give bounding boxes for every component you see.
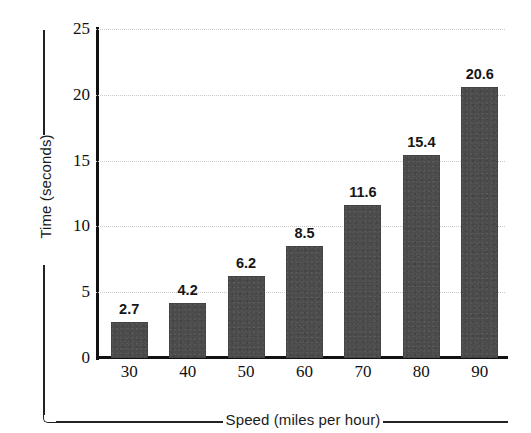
y-tick-label-5: 5 xyxy=(62,282,90,302)
y-tick-label-25: 25 xyxy=(62,19,90,39)
bar-value-label: 6.2 xyxy=(214,255,279,271)
bar-group: 2.7 xyxy=(111,29,148,358)
bars-layer: 2.74.26.28.511.615.420.6 xyxy=(96,29,505,358)
bar-value-label: 11.6 xyxy=(330,184,395,200)
y-tick-label-15: 15 xyxy=(62,151,90,171)
x-axis-title: Speed (miles per hour) xyxy=(223,411,383,428)
y-axis-tick-labels: 0510152025 xyxy=(60,29,90,358)
y-tick-label-0: 0 xyxy=(62,348,90,368)
x-tick-label-60: 60 xyxy=(275,362,334,382)
bar xyxy=(169,303,206,358)
bar-value-label: 15.4 xyxy=(389,134,454,150)
x-axis-tick-labels: 30405060708090 xyxy=(96,362,505,388)
bar xyxy=(111,322,148,358)
x-axis-title-rule-left xyxy=(56,421,223,423)
x-axis-title-rule-right xyxy=(383,421,508,423)
bar-group: 20.6 xyxy=(461,29,498,358)
bar-value-label: 2.7 xyxy=(97,301,162,317)
x-tick-label-40: 40 xyxy=(158,362,217,382)
bar-value-label: 20.6 xyxy=(447,66,512,82)
bar-group: 8.5 xyxy=(286,29,323,358)
bar-value-label: 8.5 xyxy=(272,225,337,241)
bar xyxy=(403,155,440,358)
bar xyxy=(461,87,498,358)
bar-group: 4.2 xyxy=(169,29,206,358)
bar-chart-figure: Time (seconds) Speed (miles per hour) 05… xyxy=(0,0,531,433)
x-tick-label-50: 50 xyxy=(217,362,276,382)
y-axis-title-rule-bottom xyxy=(43,265,45,415)
bar xyxy=(344,205,381,358)
x-tick-label-70: 70 xyxy=(333,362,392,382)
x-tick-label-90: 90 xyxy=(450,362,509,382)
bar-group: 11.6 xyxy=(344,29,381,358)
x-tick-label-80: 80 xyxy=(392,362,451,382)
bar-group: 6.2 xyxy=(228,29,265,358)
y-tick-label-10: 10 xyxy=(62,216,90,236)
x-tick-label-30: 30 xyxy=(100,362,159,382)
y-tick-label-20: 20 xyxy=(62,85,90,105)
bar-value-label: 4.2 xyxy=(155,282,220,298)
bar xyxy=(228,276,265,358)
bar-group: 15.4 xyxy=(403,29,440,358)
bar xyxy=(286,246,323,358)
y-axis-title: Time (seconds) xyxy=(37,102,54,272)
